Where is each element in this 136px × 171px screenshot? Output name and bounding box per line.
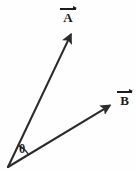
vector-a-label: A (60, 6, 76, 24)
vector-diagram: A B θ (0, 0, 136, 171)
vector-b-overline-arrow-icon (117, 89, 132, 94)
angle-theta-label: θ (19, 143, 25, 155)
vector-b-label: B (117, 89, 132, 107)
vector-b-letter: B (117, 94, 132, 107)
vector-a-letter: A (60, 11, 76, 24)
vector-a-overline-arrow-icon (60, 6, 76, 11)
